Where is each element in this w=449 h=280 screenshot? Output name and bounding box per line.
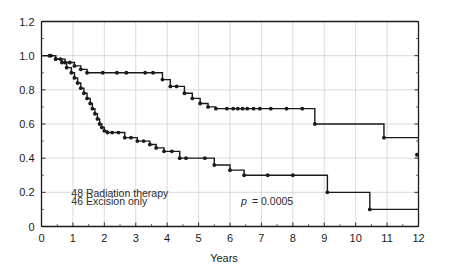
- censor-mark: [47, 54, 51, 58]
- censor-mark: [325, 190, 329, 194]
- censor-mark: [79, 67, 83, 71]
- x-tick-label: 2: [101, 232, 107, 244]
- y-tick-label: 0.6: [19, 118, 34, 130]
- censor-mark: [184, 156, 188, 160]
- x-tick-label: 11: [381, 232, 392, 244]
- censor-mark: [236, 107, 240, 111]
- censor-mark: [115, 71, 119, 75]
- censor-mark: [214, 107, 218, 111]
- pvalue-italic: p: [240, 195, 247, 207]
- censor-mark: [58, 57, 62, 61]
- x-tick-label: 3: [133, 232, 139, 244]
- censor-mark: [285, 107, 289, 111]
- y-tick-label: 0: [28, 221, 34, 233]
- x-tick-label: 9: [321, 232, 327, 244]
- censor-mark: [258, 107, 262, 111]
- censor-mark: [129, 136, 133, 140]
- censor-mark: [93, 112, 97, 116]
- censor-mark: [54, 57, 58, 61]
- censor-mark: [60, 61, 64, 65]
- censor-mark: [151, 71, 155, 75]
- censor-mark: [175, 85, 179, 89]
- censor-mark: [382, 136, 386, 140]
- censor-mark: [148, 143, 152, 147]
- censor-mark: [203, 156, 207, 160]
- censor-mark: [242, 173, 246, 177]
- censor-mark: [162, 149, 166, 153]
- censor-mark: [124, 71, 128, 75]
- legend-excision: 46 Excision only: [71, 195, 148, 207]
- censor-mark: [65, 66, 69, 70]
- y-tick-label: 0.4: [19, 152, 34, 164]
- km-survival-chart: 012345678910111200.20.40.60.81.01.2 48 R…: [0, 0, 449, 280]
- censor-mark: [90, 107, 94, 111]
- censor-mark: [82, 91, 86, 95]
- pvalue-rest: = 0.0005: [252, 195, 293, 207]
- censor-mark: [106, 131, 110, 135]
- censor-mark: [68, 61, 72, 65]
- censor-mark: [73, 76, 77, 80]
- x-tick-label: 0: [38, 232, 44, 244]
- censor-mark: [110, 131, 114, 135]
- censor-mark: [168, 85, 172, 89]
- censor-mark: [269, 107, 273, 111]
- censor-mark: [266, 173, 270, 177]
- y-tick-label: 0.8: [19, 84, 34, 96]
- censor-mark: [100, 126, 104, 130]
- censor-mark: [73, 64, 77, 68]
- y-tick-label: 1.2: [19, 16, 34, 28]
- censor-mark: [178, 156, 182, 160]
- censor-mark: [368, 208, 372, 212]
- censor-mark: [143, 71, 147, 75]
- censor-mark: [415, 153, 419, 157]
- censor-mark: [117, 131, 121, 135]
- censor-mark: [88, 102, 92, 106]
- censor-mark: [135, 139, 139, 143]
- censor-mark: [225, 107, 229, 111]
- censor-mark: [245, 107, 249, 111]
- chart-annotations: 48 Radiation therapy46 Excision onlyp= 0…: [71, 187, 293, 208]
- x-tick-label: 10: [350, 232, 362, 244]
- censor-mark: [198, 102, 202, 106]
- censor-mark: [313, 122, 317, 126]
- x-tick-label: 4: [164, 232, 170, 244]
- x-tick-label: 1: [70, 232, 76, 244]
- censor-mark: [98, 122, 102, 126]
- censor-mark: [142, 139, 146, 143]
- x-tick-label: 12: [412, 232, 424, 244]
- censor-mark: [161, 78, 165, 82]
- censor-mark: [96, 117, 100, 121]
- censor-mark: [183, 91, 187, 95]
- x-tick-label: 8: [290, 232, 296, 244]
- censor-mark: [241, 107, 245, 111]
- censor-mark: [123, 136, 127, 140]
- x-tick-label: 5: [196, 232, 202, 244]
- censor-mark: [76, 81, 80, 85]
- axis-tick-labels: 012345678910111200.20.40.60.81.01.2: [19, 16, 424, 244]
- x-axis-title: Years: [210, 252, 238, 264]
- censor-mark: [85, 71, 89, 75]
- censor-mark: [190, 96, 194, 100]
- x-tick-label: 7: [258, 232, 264, 244]
- censor-mark: [79, 86, 83, 90]
- censor-mark: [228, 168, 232, 172]
- chart-canvas: 012345678910111200.20.40.60.81.01.2 48 R…: [0, 0, 449, 280]
- y-tick-label: 1.0: [19, 50, 34, 62]
- censor-mark: [170, 149, 174, 153]
- censor-mark: [212, 163, 216, 167]
- censor-mark: [252, 107, 256, 111]
- censor-mark: [300, 107, 304, 111]
- censor-mark: [231, 107, 235, 111]
- censor-mark: [291, 173, 295, 177]
- censor-mark: [69, 71, 73, 75]
- censor-mark: [85, 96, 89, 100]
- censor-mark: [154, 146, 158, 150]
- y-tick-label: 0.2: [19, 186, 34, 198]
- censor-mark: [101, 71, 105, 75]
- censor-mark: [206, 105, 210, 109]
- x-tick-label: 6: [227, 232, 233, 244]
